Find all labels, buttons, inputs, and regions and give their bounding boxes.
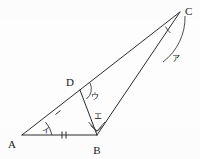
- vertex-label-c: C: [185, 5, 192, 17]
- vertex-label-a: A: [8, 138, 16, 150]
- geometry-figure: A B C D ア イ ウ エ: [0, 0, 200, 159]
- angle-label-u: ウ: [91, 92, 99, 101]
- angle-label-a: ア: [172, 54, 180, 63]
- angle-label-e: エ: [94, 112, 102, 121]
- vertex-label-b: B: [93, 144, 100, 156]
- tick-mark-group: [56, 111, 67, 139]
- vertex-label-d: D: [66, 76, 74, 88]
- figure-canvas: A B C D ア イ ウ エ: [0, 0, 200, 159]
- angle-label-i: イ: [42, 126, 50, 135]
- vertex-label-group: A B C D: [8, 5, 192, 156]
- tick-mark-ad-1: [56, 111, 61, 115]
